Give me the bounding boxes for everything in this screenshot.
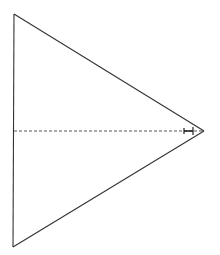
triangle-upper-side [14, 14, 204, 131]
triangle-diagram [0, 0, 220, 255]
segment-tick-marker [184, 127, 193, 135]
triangle-left-side [13, 14, 14, 247]
triangle-lower-side [13, 131, 204, 247]
triangle [13, 14, 204, 247]
